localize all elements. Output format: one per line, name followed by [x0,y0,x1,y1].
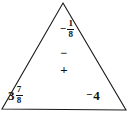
bottom-right-value: − 4 [86,86,122,104]
triangle-number-puzzle: − 1 8 − + 3 7 8 − 4 [0,0,128,113]
bottom-left-fraction: 7 8 [16,85,23,106]
minus-operator: − [61,47,68,59]
top-value-numerator: 1 [67,19,74,28]
top-value-sign: − [60,23,66,34]
top-value-denominator: 8 [67,30,74,39]
bottom-right-integer: 4 [93,89,100,102]
plus-operator: + [60,63,67,76]
bottom-left-denominator: 8 [16,96,23,105]
bottom-left-value: 3 7 8 [8,83,48,107]
bottom-right-value-sign: − [86,89,92,100]
bottom-left-whole-number: 3 [8,89,15,102]
top-value: − 1 8 [50,17,84,41]
bottom-left-numerator: 7 [16,85,23,94]
center-operators: − + [52,46,76,76]
top-value-fraction: 1 8 [67,19,74,40]
